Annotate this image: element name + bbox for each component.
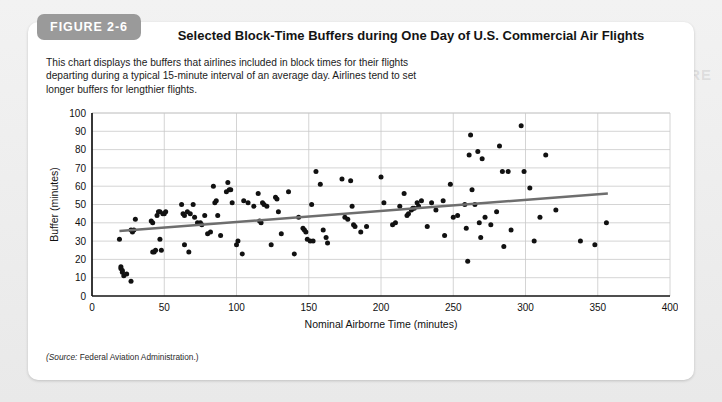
svg-text:40: 40 xyxy=(75,217,87,228)
x-axis-label: Nominal Airborne Time (minutes) xyxy=(305,318,458,330)
source-text: Federal Aviation Administration.) xyxy=(80,352,199,362)
svg-text:0: 0 xyxy=(80,291,86,302)
svg-text:50: 50 xyxy=(75,199,87,210)
figure-page: YOU ARE THERE FIGURE 2-6 Selected Block-… xyxy=(0,0,722,402)
svg-text:60: 60 xyxy=(75,181,87,192)
figure-number-tag: FIGURE 2-6 xyxy=(37,14,141,40)
svg-text:80: 80 xyxy=(75,144,87,155)
y-axis-label: Buffer (minutes) xyxy=(48,167,60,242)
svg-text:50: 50 xyxy=(159,302,171,313)
y-axis-tick-labels: 0102030405060708090100 xyxy=(69,108,86,302)
scatter-chart: 0102030405060708090100 05010015020025030… xyxy=(44,106,678,344)
svg-text:70: 70 xyxy=(75,163,87,174)
figure-source: (Source: Federal Aviation Administration… xyxy=(46,352,199,362)
svg-text:100: 100 xyxy=(69,108,86,119)
svg-text:90: 90 xyxy=(75,126,87,137)
svg-text:0: 0 xyxy=(89,302,95,313)
svg-text:300: 300 xyxy=(517,302,534,313)
svg-text:350: 350 xyxy=(589,302,606,313)
svg-text:400: 400 xyxy=(662,302,678,313)
figure-card: FIGURE 2-6 Selected Block-Time Buffers d… xyxy=(28,22,694,380)
svg-text:30: 30 xyxy=(75,236,87,247)
svg-text:200: 200 xyxy=(373,302,390,313)
svg-text:20: 20 xyxy=(75,254,87,265)
source-label: (Source: xyxy=(46,352,77,362)
figure-description: This chart displays the buffers that air… xyxy=(46,56,446,96)
x-axis-tick-labels: 050100150200250300350400 xyxy=(89,302,678,313)
svg-text:100: 100 xyxy=(228,302,245,313)
chart-canvas: 0102030405060708090100 05010015020025030… xyxy=(44,106,678,344)
svg-text:150: 150 xyxy=(300,302,317,313)
svg-text:10: 10 xyxy=(75,272,87,283)
svg-text:250: 250 xyxy=(445,302,462,313)
figure-title: Selected Block-Time Buffers during One D… xyxy=(146,22,676,50)
